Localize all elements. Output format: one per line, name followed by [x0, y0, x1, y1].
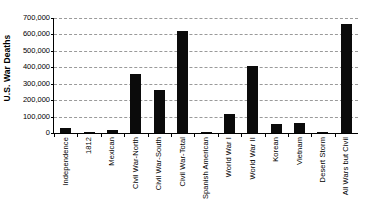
- y-axis-tick-label: 0: [14, 129, 50, 137]
- x-label-slot: World War II: [240, 136, 263, 218]
- y-axis-tick-label: 700,000: [14, 14, 50, 22]
- bar-series: [54, 18, 358, 133]
- bar-slot: [335, 18, 358, 133]
- x-axis-tick-label: World War II: [247, 137, 256, 179]
- bar: [201, 132, 212, 133]
- bar: [177, 31, 188, 133]
- x-label-slot: All Wars but Civil: [334, 136, 357, 218]
- x-label-slot: Korean: [264, 136, 287, 218]
- bar-slot: [77, 18, 100, 133]
- x-axis-tick-label: Mexican: [107, 137, 116, 166]
- bar-slot: [265, 18, 288, 133]
- bar-slot: [171, 18, 194, 133]
- x-label-slot: World War I: [217, 136, 240, 218]
- x-axis-tick-label: All Wars but Civil: [341, 137, 350, 195]
- x-label-slot: Civil War-South: [147, 136, 170, 218]
- x-axis-tick-label: Desert Storm: [317, 137, 326, 182]
- bar: [130, 74, 141, 133]
- bar: [271, 124, 282, 133]
- plot-area: [53, 18, 358, 134]
- y-axis-tick-label: 200,000: [14, 96, 50, 104]
- x-label-slot: Civil War-North: [123, 136, 146, 218]
- bar-slot: [148, 18, 171, 133]
- bar-chart: U.S. War Deaths 700,000600,000500,000400…: [0, 0, 366, 219]
- y-axis-tick-label: 500,000: [14, 47, 50, 55]
- bar: [317, 132, 328, 133]
- x-axis-tick-label: 1812: [84, 137, 93, 154]
- y-axis-title-text: U.S. War Deaths: [2, 34, 12, 101]
- bar: [60, 128, 71, 133]
- bar-slot: [288, 18, 311, 133]
- y-axis-tick-label: 400,000: [14, 63, 50, 71]
- x-label-slot: Mexican: [100, 136, 123, 218]
- bar-slot: [311, 18, 334, 133]
- x-axis-tick-label: Vietnam: [294, 137, 303, 165]
- bar-slot: [241, 18, 264, 133]
- x-axis-tick-label: Civil War-North: [130, 137, 139, 189]
- bar-slot: [218, 18, 241, 133]
- y-axis-tick-label: 600,000: [14, 30, 50, 38]
- x-label-slot: Spanish American: [193, 136, 216, 218]
- y-axis-title: U.S. War Deaths: [0, 0, 14, 135]
- bar: [107, 130, 118, 133]
- bar-slot: [194, 18, 217, 133]
- x-axis-tick-label: Civil War-South: [154, 137, 163, 190]
- bar: [294, 123, 305, 133]
- bar: [247, 66, 258, 133]
- bar-slot: [54, 18, 77, 133]
- y-axis-tick-label: 100,000: [14, 113, 50, 121]
- bar-slot: [101, 18, 124, 133]
- bar: [154, 90, 165, 133]
- y-axis-tick-labels: 700,000600,000500,000400,000300,000200,0…: [14, 18, 52, 133]
- x-axis-tick-label: Korean: [271, 137, 280, 162]
- x-axis-tick-label: Independence: [60, 137, 69, 186]
- bar-slot: [124, 18, 147, 133]
- x-label-slot: Civil War-Total: [170, 136, 193, 218]
- x-label-slot: Desert Storm: [310, 136, 333, 218]
- x-label-slot: 1812: [76, 136, 99, 218]
- x-label-slot: Independence: [53, 136, 76, 218]
- x-label-slot: Vietnam: [287, 136, 310, 218]
- bar: [224, 114, 235, 133]
- x-axis-tick-label: Civil War-Total: [177, 137, 186, 187]
- bar: [341, 24, 352, 133]
- y-axis-tick-label: 300,000: [14, 80, 50, 88]
- x-axis-tick-label: World War I: [224, 137, 233, 177]
- x-axis-tick-label: Spanish American: [201, 137, 210, 199]
- x-axis-tick-labels: Independence1812MexicanCivil War-NorthCi…: [53, 136, 357, 218]
- bar: [84, 132, 95, 133]
